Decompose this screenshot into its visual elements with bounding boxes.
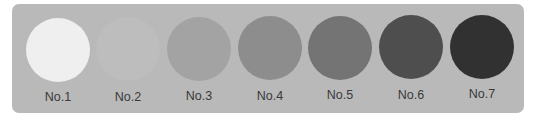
- swatch-label-no7: No.7: [447, 87, 517, 101]
- swatch-no6: [379, 15, 443, 79]
- swatch-label-no1: No.1: [23, 90, 93, 104]
- swatch-label-no6: No.6: [376, 88, 446, 102]
- swatch-no1: [26, 18, 90, 82]
- swatch-label-no5: No.5: [305, 88, 375, 102]
- gray-scale-panel: No.1 No.2 No.3 No.4 No.5 No.6 No.7: [12, 4, 524, 113]
- swatch-no5: [308, 16, 372, 80]
- swatch-no4: [238, 16, 302, 80]
- swatch-no2: [96, 17, 160, 81]
- swatch-label-no2: No.2: [93, 90, 163, 104]
- swatch-label-no3: No.3: [164, 89, 234, 103]
- swatch-no3: [167, 17, 231, 81]
- swatch-label-no4: No.4: [235, 89, 305, 103]
- swatch-no7: [450, 15, 514, 79]
